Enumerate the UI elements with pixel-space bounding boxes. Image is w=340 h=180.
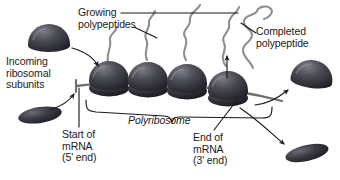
label-completed-polypeptide: Completed polypeptide	[256, 26, 336, 49]
free-large-subunit-incoming	[28, 24, 70, 52]
label-growing-polypeptides: Growing polypeptides	[78, 7, 154, 30]
ribosome-3	[167, 64, 207, 100]
arrow-incoming-large	[72, 48, 98, 66]
label-polyribosome: Polyribosome	[128, 115, 218, 127]
free-large-subunit-released	[290, 57, 335, 91]
free-small-subunit-incoming	[17, 104, 63, 127]
polyribosome-diagram: Growing polypeptides Completed polypepti…	[0, 0, 340, 180]
growing-polypeptide-chain-1	[108, 27, 117, 62]
label-incoming-ribosomal-subunits: Incoming ribosomal subunits	[6, 56, 72, 91]
label-end-of-mrna: End of mRNA (3' end)	[193, 132, 263, 167]
label-start-of-mrna: Start of mRNA (5' end)	[62, 129, 132, 164]
growing-polypeptide-chain-4	[223, 7, 239, 66]
ribosome-1	[89, 61, 129, 97]
ribosome-2	[128, 62, 168, 98]
free-small-subunit-released	[284, 140, 330, 165]
ribosome-4	[208, 71, 248, 107]
leader-completed	[241, 23, 256, 33]
